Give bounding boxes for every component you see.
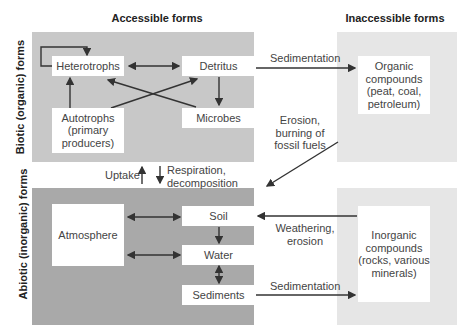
weathering-line-2: erosion xyxy=(268,235,342,248)
node-detritus: Detritus xyxy=(182,56,255,76)
node-microbes: Microbes xyxy=(182,108,255,128)
label-respiration: Respiration, decomposition xyxy=(167,164,238,189)
erosion-line-3: fossil fuels xyxy=(268,139,332,152)
inorganic-line-2: compounds xyxy=(366,242,423,255)
node-atmosphere: Atmosphere xyxy=(52,204,124,266)
organic-line-3: (peat, coal, xyxy=(367,85,421,98)
node-heterotrophs: Heterotrophs xyxy=(52,56,124,76)
label-weathering: Weathering, erosion xyxy=(268,222,342,247)
label-erosion: Erosion, burning of fossil fuels xyxy=(268,114,332,152)
label-uptake: Uptake xyxy=(105,169,140,182)
autotrophs-line-3: producers) xyxy=(62,137,115,150)
organic-line-1: Organic xyxy=(375,60,414,73)
weathering-line-1: Weathering, xyxy=(268,222,342,235)
respiration-line-1: Respiration, xyxy=(167,164,238,177)
node-organic-compounds: Organic compounds (peat, coal, petroleum… xyxy=(358,56,430,114)
node-sediments: Sediments xyxy=(182,285,255,305)
node-autotrophs: Autotrophs (primary producers) xyxy=(52,108,124,153)
inorganic-line-1: Inorganic xyxy=(371,229,416,242)
label-sedimentation-bottom: Sedimentation xyxy=(270,280,340,293)
node-water: Water xyxy=(182,245,255,265)
organic-line-4: petroleum) xyxy=(368,98,421,111)
autotrophs-line-2: (primary xyxy=(68,124,108,137)
erosion-line-2: burning of xyxy=(268,127,332,140)
organic-line-2: compounds xyxy=(366,73,423,86)
node-soil: Soil xyxy=(182,206,255,226)
erosion-line-1: Erosion, xyxy=(268,114,332,127)
label-sedimentation-top: Sedimentation xyxy=(270,52,340,65)
autotrophs-line-1: Autotrophs xyxy=(61,112,114,125)
inorganic-line-3: (rocks, various xyxy=(358,254,430,267)
node-inorganic-compounds: Inorganic compounds (rocks, various mine… xyxy=(358,206,430,302)
respiration-line-2: decomposition xyxy=(167,177,238,190)
inorganic-line-4: minerals) xyxy=(371,267,416,280)
